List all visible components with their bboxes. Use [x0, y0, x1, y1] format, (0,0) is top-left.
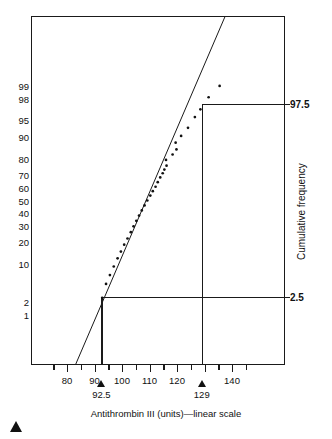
y-tick-label-90: 90 — [18, 132, 29, 143]
reference-line-horizontal-97.5 — [202, 104, 285, 105]
y-tick-label-40: 40 — [18, 207, 29, 218]
x-tick-140 — [232, 365, 233, 372]
x-tick-100 — [122, 365, 123, 372]
x-tick-130 — [205, 365, 206, 372]
right-axis-tick-97.5 — [285, 104, 290, 105]
reference-line-vertical-92.5 — [101, 297, 102, 365]
right-axis-tick-2.5 — [285, 297, 290, 298]
x-axis-callout-labels: 12992.5 — [0, 389, 332, 403]
x-tick-105 — [136, 365, 137, 370]
callout-label-92.5: 92.5 — [92, 389, 111, 400]
axis-arrow-92.5 — [97, 380, 105, 387]
x-axis-tick-labels: 8090100110120140 — [0, 375, 332, 389]
y-tick-label-20: 20 — [18, 236, 29, 247]
x-tick-145 — [246, 365, 247, 370]
callout-label-129: 129 — [194, 389, 210, 400]
y-tick-label-60: 60 — [18, 183, 29, 194]
y-tick-label-1: 1 — [24, 310, 29, 321]
percentile-label-2.5: 2.5 — [290, 292, 304, 303]
x-tick-label-140: 140 — [224, 375, 240, 386]
x-tick-85 — [81, 365, 82, 370]
x-tick-label-100: 100 — [114, 375, 130, 386]
axis-arrow-129 — [198, 380, 206, 387]
reference-line-horizontal-2.5 — [101, 297, 285, 298]
y-tick-label-50: 50 — [18, 195, 29, 206]
x-tick-90 — [95, 365, 96, 372]
y-tick-label-99: 99 — [18, 80, 29, 91]
x-tick-80 — [67, 365, 68, 372]
percentile-label-97.5: 97.5 — [290, 99, 309, 110]
x-tick-120 — [177, 365, 178, 372]
x-tick-label-110: 110 — [142, 375, 157, 386]
x-tick-95 — [108, 365, 109, 370]
x-tick-75 — [53, 365, 54, 370]
solid-triangle-marker — [10, 421, 22, 432]
x-tick-label-80: 80 — [62, 375, 73, 386]
x-tick-115 — [163, 365, 164, 370]
x-tick-125 — [191, 365, 192, 370]
y-axis-title: Cumulative frequency — [296, 130, 307, 260]
x-tick-135 — [218, 365, 219, 370]
y-tick-label-2: 2 — [24, 296, 29, 307]
reference-line-vertical-129 — [202, 104, 203, 365]
y-tick-label-98: 98 — [18, 94, 29, 105]
probability-plot-figure: 12102030405060708090959899 8090100110120… — [0, 0, 332, 439]
x-tick-110 — [150, 365, 151, 372]
y-tick-label-80: 80 — [18, 154, 29, 165]
x-tick-label-120: 120 — [169, 375, 185, 386]
y-tick-label-30: 30 — [18, 221, 29, 232]
y-tick-label-10: 10 — [18, 258, 29, 269]
y-tick-label-95: 95 — [18, 114, 29, 125]
plot-frame — [31, 16, 285, 365]
y-tick-label-70: 70 — [18, 169, 29, 180]
x-axis-title: Antithrombin III (units)—linear scale — [0, 408, 332, 419]
